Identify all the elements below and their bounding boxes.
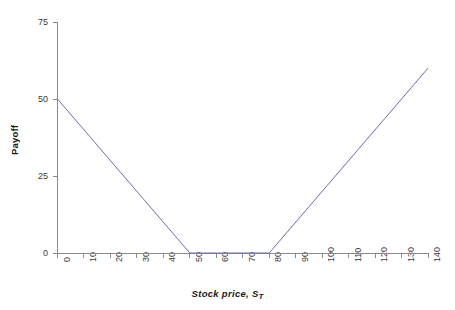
payoff-line <box>58 68 429 253</box>
axis-spines <box>58 22 429 253</box>
x-axis-ticks <box>58 253 429 258</box>
y-axis-ticks <box>53 22 58 253</box>
x-axis-label: Stock price, ST <box>0 288 455 301</box>
plot-area <box>0 0 455 310</box>
x-axis-label-text: Stock price, S <box>192 288 259 299</box>
chart-figure: Payoff 0255075 0102030405060708090100110… <box>0 0 455 310</box>
x-axis-label-subscript: T <box>259 292 264 301</box>
payoff-line-group <box>58 68 429 253</box>
